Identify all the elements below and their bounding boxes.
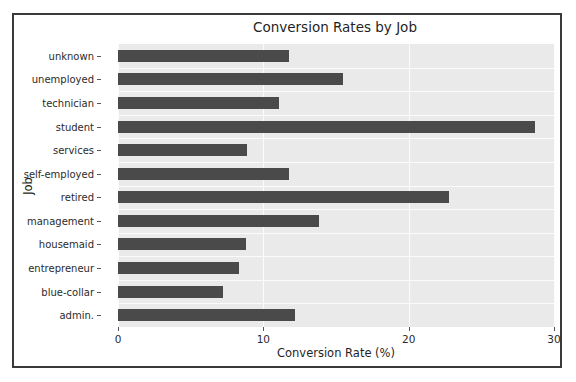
y-axis-tick-mark (97, 221, 101, 222)
gridline-vertical (118, 44, 119, 327)
gridline-horizontal (118, 68, 554, 69)
y-axis-tick-label: self-employed (24, 168, 94, 179)
bar (118, 168, 289, 180)
gridline-horizontal (118, 280, 554, 281)
x-axis-tick-label: 20 (402, 333, 415, 345)
gridline-vertical (409, 44, 410, 327)
x-axis-tick-mark (118, 327, 119, 331)
y-axis-tick-mark (97, 268, 101, 269)
x-axis-tick-label: 10 (257, 333, 270, 345)
y-axis-tick-mark (97, 197, 101, 198)
figure-panel: Conversion Rates by Job Job unknownunemp… (12, 13, 562, 368)
y-axis-tick-mark (97, 174, 101, 175)
x-axis-tick-mark (554, 327, 555, 331)
bar (118, 215, 319, 227)
y-axis-tick-mark (97, 56, 101, 57)
y-axis-tick-label: blue-collar (41, 286, 94, 297)
y-axis-tick-label: technician (42, 97, 94, 108)
y-axis-tick-label: unknown (49, 50, 94, 61)
x-axis-tick-label: 0 (115, 333, 122, 345)
bar (118, 309, 295, 321)
y-axis-tick-mark (97, 315, 101, 316)
y-axis-tick-label: services (53, 145, 94, 156)
gridline-vertical (554, 44, 555, 327)
y-axis-tick-label: retired (61, 192, 94, 203)
y-axis-tick-mark (97, 79, 101, 80)
y-axis-tick-mark (97, 103, 101, 104)
bar (118, 50, 289, 62)
gridline-horizontal (118, 303, 554, 304)
bar (118, 238, 246, 250)
gridline-vertical (263, 44, 264, 327)
x-axis-tick-mark (409, 327, 410, 331)
bar (118, 97, 279, 109)
y-axis-tick-label: management (27, 215, 94, 226)
gridline-horizontal (118, 138, 554, 139)
y-axis-tick-label: student (56, 121, 94, 132)
gridline-horizontal (118, 256, 554, 257)
chart-title: Conversion Rates by Job (118, 19, 552, 35)
y-axis-tick-label: entrepreneur (28, 263, 94, 274)
bar (118, 262, 239, 274)
gridline-horizontal (118, 115, 554, 116)
gridline-horizontal (118, 162, 554, 163)
bar (118, 144, 247, 156)
bar (118, 191, 449, 203)
bar (118, 121, 535, 133)
y-axis-tick-mark (97, 292, 101, 293)
gridline-horizontal (118, 233, 554, 234)
y-axis-tick-label: admin. (59, 310, 94, 321)
gridline-horizontal (118, 91, 554, 92)
gridline-horizontal (118, 186, 554, 187)
x-axis-tick-mark (263, 327, 264, 331)
bar (118, 286, 223, 298)
gridline-horizontal (118, 209, 554, 210)
y-axis-tick-labels: unknownunemployedtechnicianstudentservic… (14, 44, 106, 327)
y-axis-tick-label: housemaid (39, 239, 94, 250)
x-axis-tick-label: 30 (547, 333, 560, 345)
y-axis-tick-mark (97, 150, 101, 151)
x-axis-title: Conversion Rate (%) (118, 346, 554, 360)
y-axis-tick-mark (97, 244, 101, 245)
y-axis-tick-label: unemployed (32, 74, 94, 85)
y-axis-tick-mark (97, 127, 101, 128)
plot-area (118, 44, 554, 327)
bar (118, 73, 343, 85)
